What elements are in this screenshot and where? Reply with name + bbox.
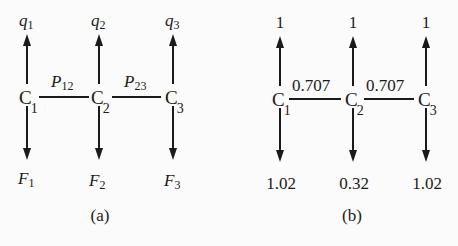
input-label-f2: F2: [88, 171, 105, 192]
input-value-3: 1.02: [412, 174, 442, 193]
edge-label-p12: P12: [50, 72, 73, 93]
output-label-q2: q2: [91, 11, 106, 32]
output-label-q1: q1: [19, 11, 34, 32]
compartment-c1: C1: [19, 87, 38, 116]
output-label-q3: q3: [165, 11, 180, 32]
edge-label-2-3: 0.707: [366, 76, 405, 95]
input-value-1: 1.02: [266, 174, 296, 193]
compartment-c1: C1: [272, 89, 291, 118]
output-value-1: 1: [276, 13, 285, 32]
compartment-c3: C3: [165, 87, 184, 116]
panel-caption-b: (b): [342, 206, 362, 225]
up-arrow-icon: [349, 36, 357, 86]
panel-caption-a: (a): [91, 206, 110, 225]
compartment-diagram: q1 q2 q3 P12 P23 C1 C2 C3: [0, 0, 458, 246]
edge-label-p23: P23: [123, 72, 146, 93]
up-arrow-icon: [169, 34, 177, 84]
edge-label-1-2: 0.707: [292, 76, 331, 95]
compartment-c2: C2: [345, 89, 364, 118]
input-value-2: 0.32: [339, 174, 369, 193]
input-label-f3: F3: [163, 171, 180, 192]
output-value-3: 1: [422, 13, 431, 32]
panel-a: q1 q2 q3 P12 P23 C1 C2 C3: [17, 11, 184, 225]
up-arrow-icon: [95, 34, 103, 84]
compartment-c3: C3: [418, 89, 437, 118]
up-arrow-icon: [23, 34, 31, 84]
up-arrow-icon: [276, 36, 284, 86]
panel-b: 1 1 1 0.707 0.707 C1 C2 C3: [266, 13, 442, 225]
input-label-f1: F1: [17, 169, 34, 190]
up-arrow-icon: [422, 36, 430, 86]
compartment-c2: C2: [91, 87, 110, 116]
output-value-2: 1: [349, 13, 358, 32]
